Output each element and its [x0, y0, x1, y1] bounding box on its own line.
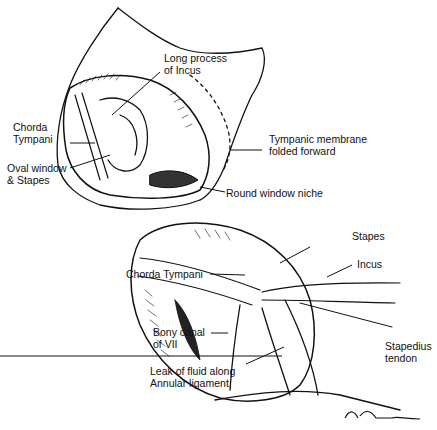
leader-stapes — [280, 247, 310, 263]
label-stapedius-tendon: Stapedius tendon — [385, 340, 432, 364]
label-long-process-incus: Long process of Incus — [164, 52, 227, 76]
membrane-outline — [118, 8, 264, 200]
label-chorda-tympani-bottom: Chorda Tympani — [126, 268, 203, 280]
label-round-window: Round window niche — [226, 187, 323, 199]
signature-stroke — [345, 412, 420, 419]
label-leak-fluid: Leak of fluid along Annular ligament — [150, 365, 235, 389]
label-incus: Incus — [357, 258, 382, 270]
ear-surgery-illustration: Long process of Incus Chorda Tympani Ova… — [0, 0, 437, 430]
leader-long-process — [112, 72, 160, 115]
label-stapes: Stapes — [352, 230, 385, 242]
leader-incus — [327, 265, 352, 277]
label-oval-window: Oval window & Stapes — [7, 162, 67, 186]
label-bony-canal: Bony canal of VII — [153, 326, 205, 350]
label-tympanic-membrane: Tympanic membrane folded forward — [269, 133, 367, 157]
label-chorda-tympani-top: Chorda Tympani — [13, 121, 53, 145]
